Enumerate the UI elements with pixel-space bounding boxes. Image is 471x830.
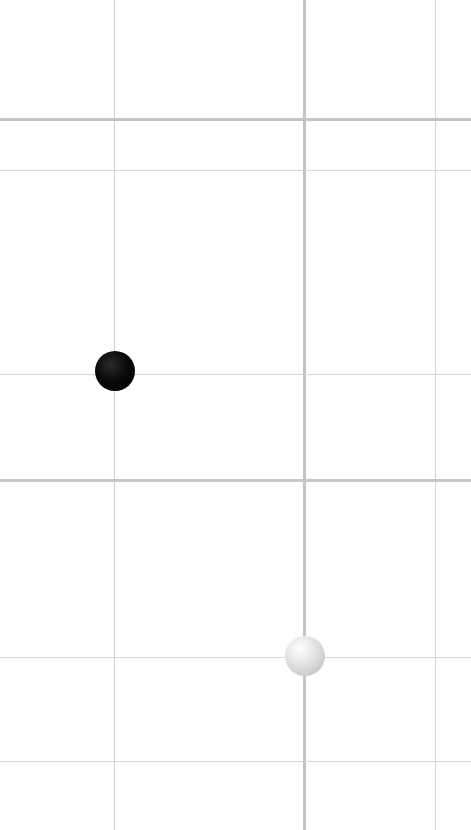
board-intersection[interactable] <box>420 359 450 389</box>
board-intersection[interactable] <box>289 465 319 495</box>
grid-line-horizontal <box>0 118 471 121</box>
game-board[interactable] <box>0 0 471 830</box>
grid-line-horizontal <box>0 657 471 658</box>
black-stone[interactable] <box>95 351 135 391</box>
board-intersection[interactable] <box>420 642 450 672</box>
board-intersection[interactable] <box>289 359 319 389</box>
board-intersection[interactable] <box>420 465 450 495</box>
board-intersection[interactable] <box>420 104 450 134</box>
board-intersection[interactable] <box>99 746 129 776</box>
board-intersection[interactable] <box>99 155 129 185</box>
grid-line-horizontal <box>0 479 471 482</box>
board-intersection[interactable] <box>99 642 129 672</box>
board-intersection[interactable] <box>289 104 319 134</box>
board-intersection[interactable] <box>99 104 129 134</box>
board-intersection[interactable] <box>289 746 319 776</box>
grid-line-horizontal <box>0 374 471 375</box>
white-stone[interactable] <box>285 636 325 676</box>
board-intersection[interactable] <box>289 155 319 185</box>
grid-line-horizontal <box>0 761 471 762</box>
board-intersection[interactable] <box>420 155 450 185</box>
board-intersection[interactable] <box>420 746 450 776</box>
grid-line-horizontal <box>0 170 471 171</box>
board-intersection[interactable] <box>99 465 129 495</box>
